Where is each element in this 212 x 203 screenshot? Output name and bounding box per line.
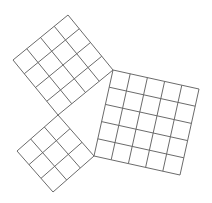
grid-square-3x3 bbox=[17, 115, 94, 192]
grid-square-4x4 bbox=[13, 15, 113, 115]
pythagoras-diagram bbox=[0, 0, 212, 203]
grid-square-5x5 bbox=[94, 70, 199, 175]
